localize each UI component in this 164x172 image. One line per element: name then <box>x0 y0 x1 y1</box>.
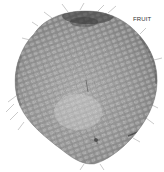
fruit-label: FRUIT <box>133 16 151 23</box>
fruit-image <box>0 0 164 172</box>
fruit-body <box>0 0 164 172</box>
